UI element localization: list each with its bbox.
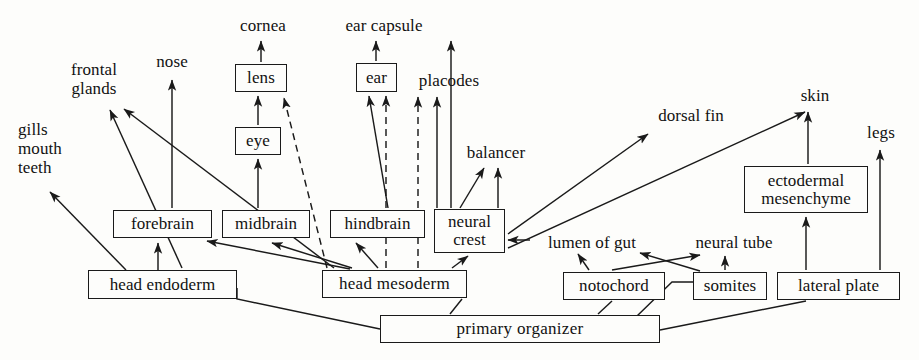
terminal-label-skin: skin: [793, 86, 837, 105]
node-box-notochord[interactable]: notochord: [563, 272, 665, 300]
edge-primary-organizer-to-head-mesoderm: [450, 299, 462, 314]
terminal-label-ear-capsule: ear capsule: [334, 16, 434, 35]
node-box-ectodermal-mesenchyme[interactable]: ectodermal mesenchyme: [744, 166, 868, 213]
terminal-label-legs: legs: [860, 123, 902, 142]
terminal-label-cornea: cornea: [232, 16, 294, 35]
node-box-primary-organizer[interactable]: primary organizer: [380, 315, 660, 343]
node-box-lens[interactable]: lens: [235, 64, 287, 92]
terminal-label-nose: nose: [148, 52, 196, 71]
edge-head-mesoderm-to-lens: [284, 98, 327, 268]
node-box-head-mesoderm[interactable]: head mesoderm: [322, 270, 467, 298]
node-box-eye[interactable]: eye: [235, 127, 281, 155]
node-box-midbrain[interactable]: midbrain: [222, 210, 310, 238]
edge-somites-to-neural-tube-b: [640, 253, 700, 271]
edge-neural-crest-to-balancer-a: [460, 168, 484, 208]
induction-cascade-diagram: forebrainmidbrainhindbrainneural crestle…: [0, 0, 919, 360]
terminal-label-lumen-of-gut: lumen of gut: [533, 233, 651, 252]
terminal-label-placodes: placodes: [410, 71, 488, 90]
edge-primary-organizer-to-notochord: [598, 301, 612, 314]
edge-head-mesoderm-to-midbrain: [272, 243, 352, 268]
node-box-hindbrain[interactable]: hindbrain: [330, 210, 425, 238]
terminal-label-frontal-glands: frontal glands: [58, 60, 130, 98]
edge-notochord-to-lumen-of-gut: [578, 254, 589, 270]
edge-head-mesoderm-to-hindbrain: [356, 243, 378, 268]
node-box-head-endoderm[interactable]: head endoderm: [88, 270, 237, 299]
edge-head-endoderm-to-frontal-glands: [110, 110, 182, 268]
edge-head-mesoderm-to-frontal-glands: [124, 109, 334, 268]
terminal-label-neural-tube: neural tube: [683, 233, 785, 252]
node-box-somites[interactable]: somites: [693, 272, 767, 300]
node-box-neural-crest[interactable]: neural crest: [434, 209, 505, 253]
edge-hindbrain-to-ear: [369, 96, 388, 208]
node-box-ear[interactable]: ear: [356, 63, 397, 92]
edge-head-mesoderm-to-forebrain: [207, 241, 350, 269]
edge-head-mesoderm-to-neural-crest: [452, 256, 468, 268]
terminal-label-balancer: balancer: [459, 143, 533, 162]
node-box-lateral-plate[interactable]: lateral plate: [777, 272, 900, 300]
terminal-label-dorsal-fin: dorsal fin: [648, 106, 734, 125]
terminal-label-gills-mouth-teeth: gills mouth teeth: [18, 120, 80, 177]
edge-primary-organizer-to-lateral-plate: [660, 301, 806, 330]
node-box-forebrain[interactable]: forebrain: [113, 210, 212, 238]
edge-notochord-to-neural-tube: [612, 255, 700, 270]
